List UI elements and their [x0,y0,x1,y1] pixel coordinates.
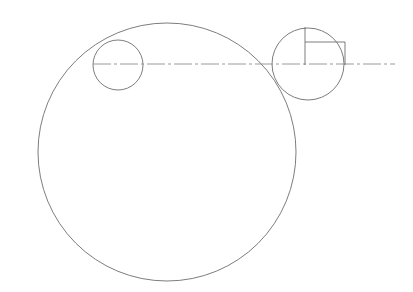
technical-drawing-canvas [0,0,413,292]
drawing-svg [0,0,413,292]
large-circle [38,23,296,281]
left-small-circle [93,40,143,90]
